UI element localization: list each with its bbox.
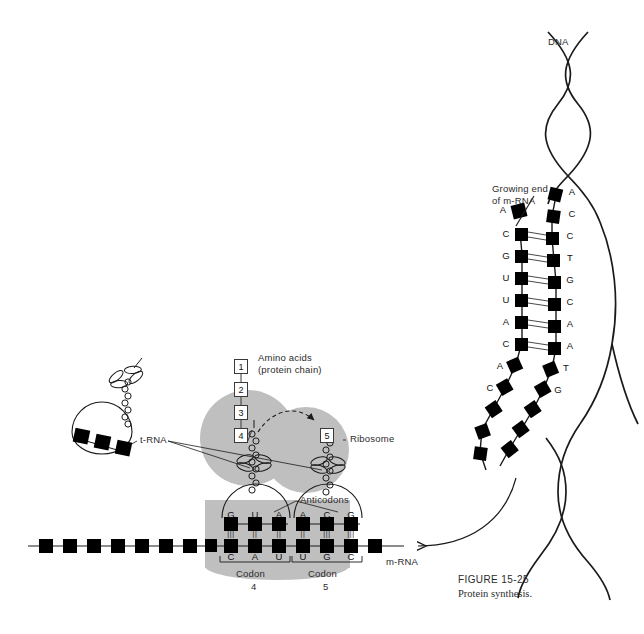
amino-acid-box-5: 5 — [320, 428, 334, 443]
dna-base-9: T — [560, 362, 572, 373]
dna-base-2: C — [566, 208, 578, 219]
ribosome-label: Ribosome — [350, 433, 394, 445]
hbond-right-1: || — [295, 530, 311, 537]
mrna-transport-arrow — [418, 478, 516, 546]
amino-acids-label-line1: Amino acids — [258, 352, 312, 364]
amino-acid-box-4: 4 — [234, 428, 248, 443]
base-pair-rungs — [528, 232, 548, 350]
dna-base-3: C — [564, 230, 576, 241]
hbond-left-3: || — [271, 530, 287, 537]
amino-acid-box-2: 2 — [234, 382, 248, 397]
hbond-right-3: ||| — [343, 530, 359, 537]
amino-acid-box-3: 3 — [234, 405, 248, 420]
mrna-base-4: U — [500, 294, 512, 305]
dna-base-7: A — [564, 318, 576, 329]
dna-base-6: C — [564, 296, 576, 307]
codon-right-base-1: U — [297, 551, 309, 562]
protein-synthesis-diagram — [0, 0, 644, 634]
figure-canvas: DNA Growing end of m-RNA Amino acids (pr… — [0, 0, 644, 634]
codon-left-base-1: C — [225, 551, 237, 562]
hbond-left-2: || — [247, 530, 263, 537]
amino-acid-box-1: 1 — [234, 359, 248, 374]
codon-5-number: 5 — [323, 581, 328, 593]
growing-end-label-line1: Growing end — [492, 183, 548, 195]
anticodon-right-base-2: C — [321, 509, 333, 520]
dna-base-5: G — [564, 274, 576, 285]
anticodon-right-base-1: A — [297, 509, 309, 520]
hbond-left-1: ||| — [223, 530, 239, 537]
mrna-label: m-RNA — [386, 556, 418, 568]
anticodon-left-base-2: U — [249, 509, 261, 520]
codon-4-label: Codon — [236, 568, 265, 580]
trna-label: t-RNA — [140, 434, 167, 446]
dna-base-4: T — [564, 252, 576, 263]
mrna-base-6: C — [500, 338, 512, 349]
anticodons-label: Anticodons — [300, 494, 349, 506]
anticodon-left-base-3: A — [273, 509, 285, 520]
codon-right-base-3: C — [345, 551, 357, 562]
codon-left-base-3: U — [273, 551, 285, 562]
figure-number: FIGURE 15-25 — [458, 574, 529, 585]
mrna-base-3: U — [500, 272, 512, 283]
codon-5-label: Codon — [308, 568, 337, 580]
codon-4-number: 4 — [251, 581, 256, 593]
dna-base-1: A — [566, 186, 578, 197]
codon-right-base-2: G — [321, 551, 333, 562]
dna-base-10: G — [552, 384, 564, 395]
mrna-base-8: C — [484, 382, 496, 393]
codon-left-base-2: A — [249, 551, 261, 562]
dna-base-8: A — [564, 340, 576, 351]
mrna-base-1: C — [500, 228, 512, 239]
mrna-base-5: A — [500, 316, 512, 327]
mrna-free-base: A — [497, 204, 509, 215]
figure-caption: Protein synthesis. — [458, 588, 532, 599]
anticodon-right-base-3: G — [345, 509, 357, 520]
hbond-right-2: ||| — [319, 530, 335, 537]
dna-label: DNA — [548, 36, 569, 48]
amino-acids-label-line2: (protein chain) — [258, 364, 322, 376]
mrna-base-2: G — [500, 250, 512, 261]
dna-double-helix — [518, 32, 638, 600]
mrna-base-7: A — [494, 360, 506, 371]
anticodon-left-base-1: G — [225, 509, 237, 520]
